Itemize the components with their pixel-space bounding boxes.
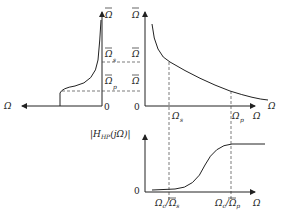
- svg-text:s: s: [180, 116, 183, 123]
- highpass-panel: |HHP(jΩ)| 0 Ωc/Ωs Ωc/Ωp Ω: [90, 129, 265, 210]
- svg-text:0: 0: [134, 102, 140, 112]
- omega-bar-label-1: Ω: [104, 10, 113, 20]
- omega-c-over-p: Ωc/Ωp: [214, 198, 240, 210]
- hp-y-label: |HHP(jΩ)|: [90, 129, 130, 140]
- mapping-curve: [152, 24, 268, 100]
- svg-text:Ω: Ω: [131, 76, 140, 86]
- svg-text:Ω: Ω: [252, 111, 261, 121]
- omega-c-over-s: Ωc/Ωs: [154, 198, 179, 209]
- svg-text:Ω: Ω: [267, 101, 276, 111]
- omega-bar-p-label-1: Ω: [104, 76, 113, 86]
- svg-text:Ω: Ω: [131, 10, 140, 20]
- svg-text:Ω: Ω: [252, 198, 261, 208]
- svg-text:Ω: Ω: [171, 111, 180, 121]
- svg-text:0: 0: [104, 102, 110, 112]
- omega-label-left: Ω: [3, 101, 12, 111]
- svg-text:p: p: [113, 83, 117, 91]
- prototype-panel: Ω Ω Ω s Ω p 0: [3, 8, 140, 112]
- svg-text:Ω: Ω: [231, 111, 240, 121]
- prototype-curve: [60, 20, 101, 106]
- svg-text:Ω: Ω: [131, 49, 140, 59]
- svg-text:p: p: [240, 116, 244, 124]
- diagram-canvas: Ω Ω Ω s Ω p 0 Ω Ω Ω 0 Ω Ω s Ω p Ω: [0, 0, 285, 217]
- mapping-panel: Ω Ω Ω 0 Ω Ω s Ω p Ω: [131, 8, 276, 200]
- svg-text:0: 0: [134, 186, 140, 196]
- omega-bar-s-label-1: Ω: [104, 49, 113, 59]
